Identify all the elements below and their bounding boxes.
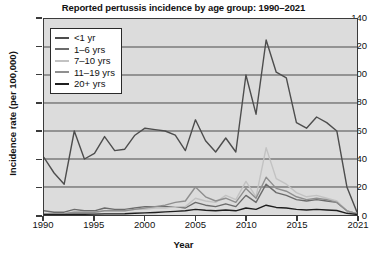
x-tick-label: 2021 (335, 219, 373, 230)
legend-swatch-icon (55, 71, 69, 73)
legend-label: 1–6 yrs (74, 44, 105, 56)
legend-swatch-icon (55, 83, 69, 85)
y-tick-mark (36, 130, 42, 132)
x-tick-mark (357, 216, 359, 221)
series-line-3 (44, 177, 357, 213)
y-tick-mark (36, 17, 42, 19)
x-axis-label: Year (0, 239, 367, 250)
legend-swatch-icon (55, 37, 69, 39)
x-tick-mark (144, 216, 146, 221)
legend-label: <1 yr (74, 32, 95, 44)
x-tick-mark (296, 216, 298, 221)
y-tick-mark (36, 187, 42, 189)
y-tick-mark (36, 74, 42, 76)
legend-item[interactable]: <1 yr (55, 32, 115, 44)
legend-item[interactable]: 20+ yrs (55, 78, 115, 90)
legend-item[interactable]: 7–10 yrs (55, 55, 115, 67)
y-tick-mark (36, 102, 42, 104)
x-tick-mark (93, 216, 95, 221)
legend-label: 11–19 yrs (74, 67, 115, 79)
legend-swatch-icon (55, 60, 69, 62)
y-axis-label: Incidence rate (per 100,000) (7, 14, 18, 214)
legend-item[interactable]: 1–6 yrs (55, 44, 115, 56)
series-line-4 (44, 205, 357, 214)
y-tick-mark (36, 215, 42, 217)
legend-label: 7–10 yrs (74, 55, 110, 67)
legend-label: 20+ yrs (74, 78, 105, 90)
legend-item[interactable]: 11–19 yrs (55, 67, 115, 79)
y-tick-mark (36, 46, 42, 48)
x-tick-mark (195, 216, 197, 221)
y-tick-mark (36, 159, 42, 161)
legend-swatch-icon (55, 48, 69, 50)
x-tick-mark (42, 216, 44, 221)
chart-title: Reported pertussis incidence by age grou… (0, 2, 367, 13)
x-tick-mark (245, 216, 247, 221)
chart-legend: <1 yr1–6 yrs7–10 yrs11–19 yrs20+ yrs (50, 28, 122, 94)
